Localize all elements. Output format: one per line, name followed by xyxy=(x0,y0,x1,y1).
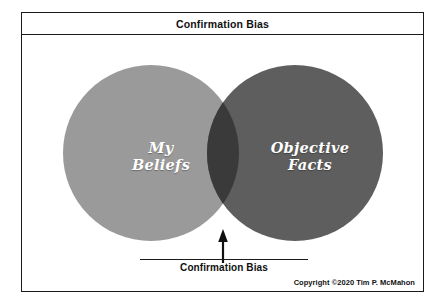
callout-divider xyxy=(140,259,308,260)
callout-label: Confirmation Bias xyxy=(140,261,308,274)
venn-svg xyxy=(22,35,423,292)
title-bar: Confirmation Bias xyxy=(22,13,423,35)
diagram-frame: Confirmation Bias xyxy=(21,12,424,292)
overlap-callout: Confirmation Bias xyxy=(140,259,308,274)
diagram-canvas: Confirmation Bias xyxy=(0,0,444,305)
up-arrow-icon xyxy=(218,229,228,263)
page-title: Confirmation Bias xyxy=(176,18,269,30)
copyright-notice: Copyright ©2020 Tim P. McMahon xyxy=(294,278,415,287)
venn-diagram: My Beliefs Objective Facts Confirmation … xyxy=(22,35,423,292)
